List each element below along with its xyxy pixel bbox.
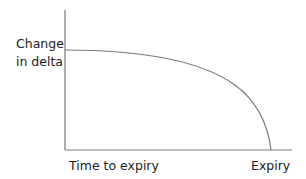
y-axis-label-line2: in delta: [16, 53, 63, 70]
chart-canvas: [0, 0, 306, 179]
x-label-expiry: Expiry: [251, 157, 290, 174]
y-axis-label-line1: Change: [16, 35, 64, 52]
x-label-time-to-expiry: Time to expiry: [69, 157, 159, 174]
delta-curve: [65, 50, 271, 150]
